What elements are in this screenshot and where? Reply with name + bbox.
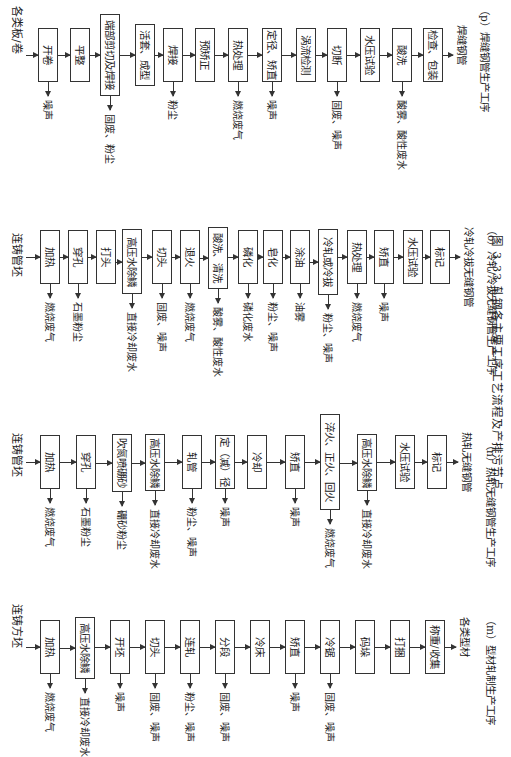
process-step-label: 高压水除鳞	[78, 623, 93, 673]
process-step-box: 定（减）径	[215, 435, 235, 489]
process-step-label: 皂化	[266, 247, 281, 267]
process-step-box: 码垛	[355, 620, 375, 674]
flow-arrow	[228, 257, 238, 258]
process-step-box: 高压水除鳞	[75, 617, 95, 679]
process-step-label: 开卷	[41, 45, 56, 65]
process-step-label: 磷化	[241, 247, 256, 267]
flow-input-label: 连铸方坯	[10, 604, 26, 648]
emission-arrow	[384, 284, 385, 298]
emission-label: 直接冷却废水	[148, 509, 163, 569]
process-step-label: 连轧	[183, 637, 198, 657]
flow-arrow	[338, 257, 347, 258]
process-step-label: 分段	[218, 637, 233, 657]
process-step-label: 切头	[148, 637, 163, 657]
process-step-label: 打捆	[393, 637, 408, 657]
emission-label: 燃烧废气	[43, 692, 58, 732]
process-step-box: 冷却	[247, 435, 267, 489]
process-step-box: 冷锯	[320, 620, 340, 674]
emission-arrow	[367, 491, 368, 505]
process-step-box: 高压水除鳞	[145, 434, 165, 491]
flow-output-label: 焊缝钢管	[455, 25, 470, 65]
process-step-box: 分段	[215, 620, 235, 674]
emission-arrow	[162, 284, 163, 298]
process-step-box: 加热	[40, 230, 60, 284]
emission-arrow	[132, 294, 133, 308]
process-step-label: 酸洗、清洗	[211, 233, 226, 283]
flow-arrow	[200, 647, 215, 648]
emission-label: 燃烧废气	[350, 302, 365, 342]
flow-arrow	[60, 648, 75, 649]
process-step-label: 冷轧或冷拔	[321, 237, 336, 287]
emission-arrow	[122, 492, 123, 506]
flow-arrow	[248, 55, 262, 56]
flow-input-label: 各类板/卷	[10, 6, 26, 54]
process-step-label: 预矫正	[198, 40, 213, 70]
flow-arrow	[282, 55, 296, 56]
process-step-label: 热处理	[231, 40, 246, 70]
process-step-label: 涡流检测	[299, 35, 314, 75]
process-step-label: 水压试验	[363, 35, 378, 75]
emission-arrow	[50, 284, 51, 298]
flow-arrow	[310, 262, 318, 263]
emission-arrow	[120, 674, 121, 688]
process-step-label: 冷却	[250, 452, 265, 472]
emission-arrow	[155, 491, 156, 505]
flow-arrow	[120, 55, 135, 56]
process-step-label: 称重/收集	[428, 625, 443, 669]
process-step-box: 穿孔	[68, 230, 88, 284]
process-step-label: 吹氮喷硼砂	[115, 438, 130, 488]
emission-arrow	[295, 489, 296, 503]
emission-label: 固废、噪声	[155, 302, 170, 352]
process-step-box: 标记	[427, 435, 447, 489]
emission-label: 燃烧废气	[183, 302, 198, 342]
flow-arrow	[90, 55, 100, 56]
emission-label: 噪声	[288, 507, 303, 527]
flow-arrow	[142, 257, 152, 258]
emission-arrow	[337, 82, 338, 96]
emission-label: 噪声	[41, 100, 56, 120]
process-step-box: 切头	[152, 230, 172, 284]
flow-output-label: 各类型材	[458, 617, 473, 657]
emission-arrow	[110, 96, 111, 110]
emission-label: 磷化废水	[241, 302, 256, 342]
process-step-box: 打头	[96, 230, 116, 284]
process-step-box: 高压水除鳞	[122, 229, 142, 294]
process-step-box: 平整	[70, 28, 90, 82]
flow-output-label: 冷轧冷拔无缝钢管	[462, 227, 477, 307]
process-step-box: 水压试验	[395, 435, 415, 489]
process-step-label: 检查、包装	[426, 30, 441, 80]
emission-label: 噪声	[377, 302, 392, 322]
flow-arrow	[26, 647, 40, 648]
process-step-box: 涡流检测	[296, 28, 316, 82]
process-step-label: 高压水除鳞	[360, 438, 375, 488]
flow-arrow	[155, 55, 163, 56]
emission-arrow	[295, 674, 296, 688]
flow-arrow	[423, 257, 430, 258]
flow-arrow	[215, 55, 228, 56]
process-step-label: 矫直	[288, 452, 303, 472]
process-step-box: 热处理	[347, 230, 367, 284]
emission-arrow	[330, 510, 331, 524]
emission-label: 油雾	[293, 302, 308, 322]
emission-label: 噪声	[265, 100, 280, 120]
process-step-label: 标记	[433, 247, 448, 267]
process-step-box: 连轧	[180, 620, 200, 674]
process-step-box: 加热	[40, 620, 60, 674]
process-step-label: 切断	[330, 45, 345, 65]
process-step-box: 焊接	[163, 28, 183, 82]
process-step-box: 酸洗	[392, 28, 412, 82]
emission-arrow	[50, 489, 51, 503]
flow-arrow	[26, 257, 40, 258]
emission-label: 燃烧废气	[231, 100, 246, 140]
emission-arrow	[190, 674, 191, 688]
emission-arrow	[402, 82, 403, 96]
emission-label: 直接冷却废水	[125, 312, 140, 372]
process-step-label: 平整	[73, 45, 88, 65]
process-step-label: 涂油	[293, 247, 308, 267]
flow-arrow	[412, 55, 423, 56]
process-step-label: 活套、成型	[138, 30, 153, 80]
flow-arrow	[340, 463, 357, 464]
flow-arrow	[95, 647, 110, 648]
flow-arrow	[26, 55, 38, 56]
emission-arrow	[328, 295, 329, 309]
